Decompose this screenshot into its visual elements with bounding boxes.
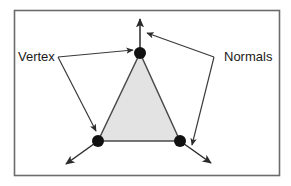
vertex-dot-bottom-left [92, 135, 104, 147]
vertex-normals-diagram: Vertex Normals [0, 0, 291, 186]
diagram-container: Vertex Normals [0, 0, 291, 186]
label-vertex: Vertex [18, 49, 55, 64]
vertex-dot-top [134, 47, 146, 59]
label-normals: Normals [224, 49, 273, 64]
vertex-dot-bottom-right [174, 135, 186, 147]
